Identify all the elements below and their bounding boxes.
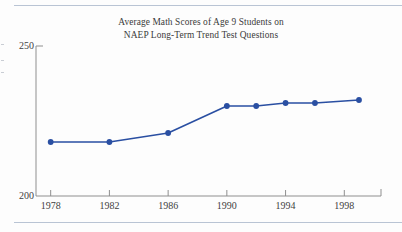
- data-series-line: [51, 100, 359, 142]
- x-axis-tick-label: 1994: [266, 200, 306, 211]
- plot-area: [0, 0, 402, 232]
- chart-axes: [36, 46, 381, 196]
- x-axis-tick-label: 1982: [89, 200, 129, 211]
- x-axis-tick-label: 1990: [207, 200, 247, 211]
- data-point-markers: [48, 97, 362, 145]
- x-axis-tick-label: 1998: [324, 200, 364, 211]
- x-axis-tick-label: 1986: [148, 200, 188, 211]
- x-axis-tick-label: 1978: [31, 200, 71, 211]
- line-chart-svg: [0, 0, 402, 232]
- y-axis-label-max: 250: [6, 40, 34, 51]
- chart-page: Average Math Scores of Age 9 Students on…: [0, 0, 402, 232]
